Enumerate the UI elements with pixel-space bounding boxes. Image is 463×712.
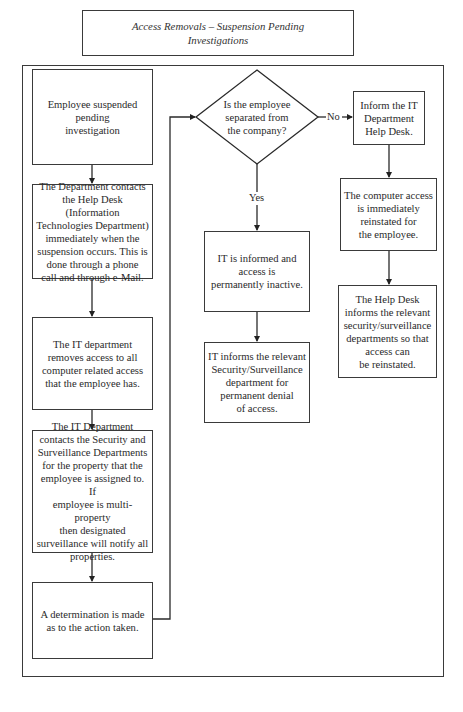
node-contact-help-desk-text: The Department contacts the Help Desk (I… [36, 180, 149, 284]
node-start-text: Employee suspended pending investigation [48, 98, 138, 137]
node-inform-it-text: Inform the IT Department Help Desk. [360, 99, 418, 138]
node-contact-security: The IT Department contacts the Security … [32, 430, 153, 553]
node-permanent-denial: IT informs the relevant Security/Surveil… [204, 342, 310, 423]
node-remove-access: The IT department removes access to all … [32, 317, 153, 410]
node-reinstate-text: The computer access is immediately reins… [344, 189, 433, 241]
node-permanently-inactive-text: IT is informed and access is permanently… [211, 252, 303, 291]
node-permanent-denial-text: IT informs the relevant Security/Surveil… [208, 350, 306, 415]
node-help-desk-informs-text: The Help Desk informs the relevant secur… [344, 293, 432, 371]
node-contact-security-text: The IT Department contacts the Security … [36, 420, 149, 563]
edge-label-no-text: No [327, 111, 340, 122]
node-reinstate: The computer access is immediately reins… [340, 178, 437, 251]
node-help-desk-informs: The Help Desk informs the relevant secur… [338, 285, 437, 378]
decision-text-container: Is the employee separated from the compa… [211, 95, 303, 139]
edge-label-yes-text: Yes [249, 192, 264, 203]
arrow-determination-to-decision [152, 117, 195, 619]
decision-text: Is the employee separated from the compa… [223, 98, 290, 137]
node-start: Employee suspended pending investigation [32, 69, 153, 165]
node-contact-help-desk: The Department contacts the Help Desk (I… [32, 184, 153, 279]
node-determination: A determination is made as to the action… [32, 582, 153, 659]
node-remove-access-text: The IT department removes access to all … [42, 338, 143, 390]
node-permanently-inactive: IT is informed and access is permanently… [204, 231, 310, 312]
edge-label-yes: Yes [248, 192, 265, 204]
node-inform-it: Inform the IT Department Help Desk. [353, 91, 425, 145]
node-determination-text: A determination is made as to the action… [41, 608, 145, 634]
edge-label-no: No [326, 111, 341, 123]
